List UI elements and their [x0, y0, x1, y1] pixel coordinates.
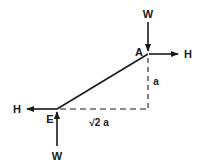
label-bottom-w: W [52, 150, 63, 162]
label-point-a: A [135, 46, 143, 58]
label-top-w: W [143, 8, 154, 20]
label-top-h: H [184, 48, 192, 60]
member-ae [57, 54, 148, 109]
label-bottom-h: H [13, 103, 21, 115]
label-dimension-horizontal: √2 a [89, 117, 109, 128]
free-body-diagram: W A H a H E √2 a W [0, 0, 201, 168]
label-dimension-vertical: a [153, 76, 159, 87]
label-point-e: E [46, 113, 53, 125]
